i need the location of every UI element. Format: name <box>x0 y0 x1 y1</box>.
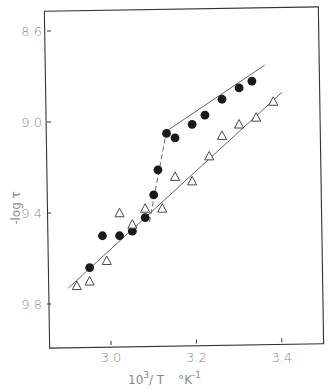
x-tick-label: 3.4 <box>271 350 292 365</box>
point-filled-circle <box>201 111 210 120</box>
point-open-triangle <box>72 281 81 290</box>
point-open-triangle <box>102 256 111 265</box>
point-filled-circle <box>141 213 150 222</box>
y-tick-label: 9.0 <box>21 115 42 130</box>
point-open-triangle <box>115 208 124 217</box>
point-filled-circle <box>149 190 158 199</box>
point-open-triangle <box>141 204 150 213</box>
point-open-triangle <box>128 220 137 229</box>
y-axis-label: -log τ <box>9 191 23 225</box>
x-axis-ticks: 3.03.23.4 <box>101 338 292 365</box>
plot-frame <box>44 7 323 348</box>
x-tick-label: 3.0 <box>101 350 122 365</box>
point-filled-circle <box>115 231 124 240</box>
point-filled-circle <box>188 120 197 129</box>
point-open-triangle <box>252 113 261 122</box>
point-filled-circle <box>218 95 227 104</box>
x-axis-title: 103/ T°K-1 <box>128 370 201 387</box>
y-tick-label: 9.4 <box>21 206 42 221</box>
fit-line <box>68 92 281 288</box>
chart: 8.69.09.49.8 3.03.23.4 -log τ 103/ T°K-1 <box>0 0 333 391</box>
point-open-triangle <box>235 120 244 128</box>
x-tick-label: 3.2 <box>186 350 207 365</box>
point-filled-circle <box>235 83 244 92</box>
y-axis-title: -log τ <box>9 191 23 225</box>
point-filled-circle <box>98 231 107 240</box>
y-tick-label: 9.8 <box>21 297 42 312</box>
point-open-triangle <box>171 172 180 181</box>
point-filled-circle <box>85 263 94 272</box>
point-filled-circle <box>171 134 180 143</box>
y-tick-label: 8.6 <box>21 24 42 39</box>
point-filled-circle <box>154 165 163 174</box>
x-axis-label: 103/ T°K-1 <box>128 370 201 387</box>
point-open-triangle <box>85 277 94 286</box>
point-filled-circle <box>162 129 171 138</box>
data-points <box>72 77 277 290</box>
point-open-triangle <box>218 131 227 140</box>
point-open-triangle <box>269 97 278 106</box>
point-filled-circle <box>248 77 257 86</box>
